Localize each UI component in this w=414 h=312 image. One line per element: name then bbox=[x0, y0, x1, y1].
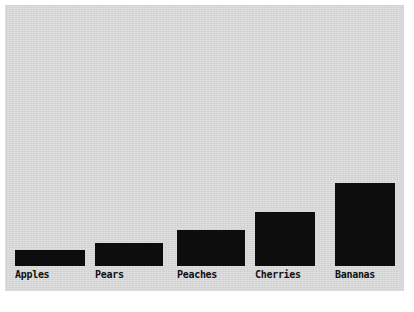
bar-pears bbox=[95, 243, 163, 266]
bar-label-cherries: Cherries bbox=[255, 269, 301, 280]
figure-caption bbox=[0, 303, 414, 312]
bar-chart-figure: ApplesPearsPeachesCherriesBananas bbox=[0, 0, 414, 312]
bar-cherries bbox=[255, 212, 315, 266]
bar-label-pears: Pears bbox=[95, 269, 124, 280]
bar-apples bbox=[15, 250, 85, 266]
bar-label-apples: Apples bbox=[15, 269, 49, 280]
bar-peaches bbox=[177, 230, 245, 266]
bar-label-bananas: Bananas bbox=[335, 269, 375, 280]
bar-label-peaches: Peaches bbox=[177, 269, 217, 280]
bar-bananas bbox=[335, 183, 395, 266]
